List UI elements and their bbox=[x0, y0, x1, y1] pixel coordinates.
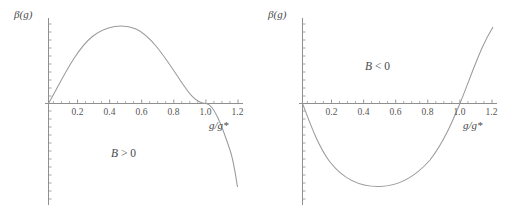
x-tick-label-3: 0.8 bbox=[414, 108, 441, 118]
x-tick-label-4: 1.0 bbox=[446, 108, 473, 118]
plot-panel-b-negative: β(g) g/g* 0.2 0.4 0.6 0.8 1.0 1.2 B < 0 bbox=[254, 0, 508, 221]
x-axis-right bbox=[299, 100, 497, 104]
plot-panel-b-positive: β(g) g/g* 0.2 0.4 0.6 0.8 1.0 1.2 B > 0 bbox=[0, 0, 254, 221]
x-tick-label-2: 0.6 bbox=[128, 108, 155, 118]
x-tick-label-1: 0.4 bbox=[350, 108, 377, 118]
x-tick-label-5: 1.2 bbox=[478, 108, 505, 118]
region-annotation-b-positive: B > 0 bbox=[111, 148, 136, 160]
x-tick-label-3: 0.8 bbox=[160, 108, 187, 118]
x-axis-label: g/g* bbox=[463, 120, 483, 131]
x-tick-label-0: 0.2 bbox=[318, 108, 345, 118]
x-tick-label-5: 1.2 bbox=[224, 108, 251, 118]
region-annotation-relation: < 0 bbox=[375, 60, 390, 72]
x-tick-label-1: 0.4 bbox=[96, 108, 123, 118]
x-tick-label-0: 0.2 bbox=[64, 108, 91, 118]
figure-container: β(g) g/g* 0.2 0.4 0.6 0.8 1.0 1.2 B > 0 bbox=[0, 0, 508, 221]
region-annotation-variable: B bbox=[365, 60, 372, 72]
region-annotation-relation: > 0 bbox=[121, 147, 136, 159]
y-axis-left bbox=[49, 18, 52, 205]
x-axis-label: g/g* bbox=[209, 120, 229, 131]
x-tick-label-2: 0.6 bbox=[382, 108, 409, 118]
x-tick-label-4: 1.0 bbox=[192, 108, 219, 118]
region-annotation-b-negative: B < 0 bbox=[365, 61, 390, 73]
region-annotation-variable: B bbox=[111, 147, 118, 159]
y-axis-label: β(g) bbox=[14, 9, 32, 20]
x-axis-left bbox=[45, 100, 243, 104]
y-axis-label: β(g) bbox=[268, 9, 286, 20]
